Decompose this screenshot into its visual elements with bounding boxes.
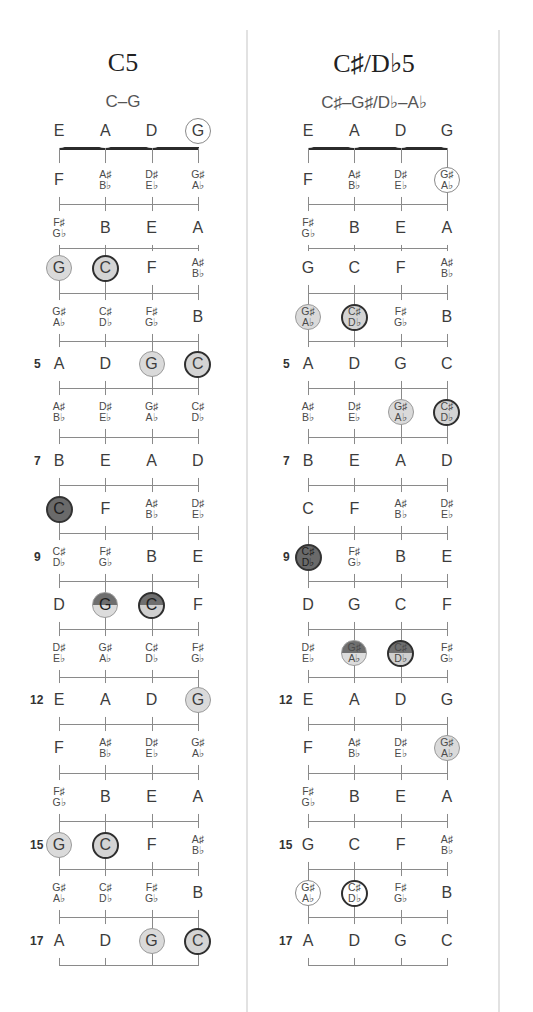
note-marker: C [92,255,119,282]
note-label: F♯G♭ [135,876,169,910]
note-flat-name: D♭ [348,893,361,904]
note-flat-name: A♭ [441,180,453,191]
note-flat-name: A♭ [192,748,204,759]
fret-line [59,533,199,534]
note-label: D [181,444,215,478]
note-label: E [291,114,325,148]
note-label: D♯E♭ [384,731,418,765]
note-label: D [135,683,169,717]
note-flat-name: D♭ [394,653,407,664]
note-label: D♯E♭ [384,163,418,197]
note-label: F♯G♭ [135,300,169,334]
note-flat-name: B♭ [192,845,204,856]
note-label: A [291,924,325,958]
note-label: A [42,924,76,958]
note-name: G [348,597,360,613]
note-label: C [337,251,371,285]
note-label: C♯D♭ [88,876,122,910]
note-flat-name: D♭ [348,317,361,328]
note-label: D [42,588,76,622]
note-marker: G [139,928,165,954]
note-flat-name: G♭ [52,797,65,808]
note-flat-name: G♭ [145,317,158,328]
note-label: F [291,731,325,765]
fret-line [308,677,448,678]
note-label: A♯B♭ [88,163,122,197]
note-label: B [430,300,464,334]
note-name: B [349,789,360,805]
note-name: A [54,933,65,949]
note-flat-name: E♭ [395,748,407,759]
note-name: D [302,597,314,613]
fretboard: EADGFA♯B♭D♯E♭G♯A♭F♯G♭BEAGCFA♯B♭G♯A♭C♯D♭F… [0,0,260,1012]
fret-number: 12 [30,693,43,707]
note-label: C [291,492,325,526]
note-flat-name: A♭ [441,748,453,759]
note-name: G [53,837,65,853]
chord-panel-csharp5: C♯/D♭5 C♯–G♯/D♭–A♭ EADGFA♯B♭D♯E♭G♯A♭F♯G♭… [250,0,498,1012]
note-label: D [88,347,122,381]
note-marker: G♯A♭ [295,304,321,330]
note-name: C [441,933,453,949]
fret-line [308,581,448,582]
chord-panel-c5: C5 C–G EADGFA♯B♭D♯E♭G♯A♭F♯G♭BEAGCFA♯B♭G♯… [0,0,246,1012]
fret-line [308,869,448,870]
note-label: F♯G♭ [291,211,325,245]
note-name: C [349,260,361,276]
note-name: C [146,597,158,613]
note-name: E [146,220,157,236]
panel-divider [246,30,248,1012]
note-label: G [430,683,464,717]
panel-divider [498,30,500,1012]
fret-number: 12 [279,693,292,707]
fret-line [308,485,448,486]
note-name: D [395,123,407,139]
note-name: F [54,740,64,756]
note-label: C [430,924,464,958]
note-name: A [349,692,360,708]
note-name: G [441,692,453,708]
nut [308,147,448,150]
note-label: F [42,731,76,765]
note-marker: G♯A♭ [434,167,460,193]
note-name: G [145,933,157,949]
fret-line [308,533,448,534]
note-label: E [430,540,464,574]
note-label: A [88,683,122,717]
note-marker: G [46,832,72,858]
note-label: F [181,588,215,622]
note-marker: C [92,832,119,859]
note-name: A [303,933,314,949]
note-name: A [193,220,204,236]
note-marker: C [46,496,73,523]
note-flat-name: E♭ [441,509,453,520]
note-label: A [88,114,122,148]
note-label: F♯G♭ [42,211,76,245]
fret-line [59,388,199,389]
note-label: F♯G♭ [384,300,418,334]
note-name: C [441,356,453,372]
note-label: A♯B♭ [135,492,169,526]
note-flat-name: E♭ [192,509,204,520]
note-label: A♯B♭ [430,251,464,285]
note-label: D♯E♭ [337,395,371,429]
note-label: C [384,588,418,622]
note-flat-name: B♭ [192,268,204,279]
note-label: F♯G♭ [42,780,76,814]
note-flat-name: G♭ [145,893,158,904]
note-name: B [303,453,314,469]
note-label: D♯E♭ [135,163,169,197]
note-flat-name: D♭ [99,893,112,904]
note-flat-name: B♭ [348,180,360,191]
fret-line [59,341,199,342]
note-name: G [192,692,204,708]
note-flat-name: G♭ [99,557,112,568]
note-name: G [99,597,111,613]
note-flat-name: G♭ [191,653,204,664]
note-marker: G♯A♭ [295,880,321,906]
note-flat-name: G♭ [440,653,453,664]
note-name: G [53,260,65,276]
note-name: G [441,123,453,139]
note-marker: C♯D♭ [341,880,368,907]
note-label: F♯G♭ [181,636,215,670]
